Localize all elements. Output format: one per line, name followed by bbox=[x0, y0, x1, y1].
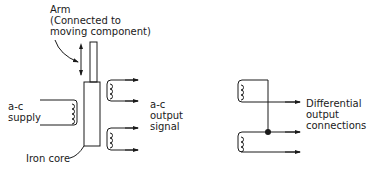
secondary-coil-bottom bbox=[107, 128, 138, 150]
secondary-coil-top bbox=[107, 80, 138, 101]
coil-windings-icon bbox=[110, 133, 113, 148]
primary-coil bbox=[40, 100, 77, 125]
coil-windings-icon bbox=[241, 137, 244, 152]
output-label-line1: a-c bbox=[150, 99, 165, 110]
differential-label-line2: output bbox=[306, 109, 339, 120]
coil-windings-icon bbox=[72, 104, 75, 124]
supply-label-line1: a-c bbox=[8, 101, 23, 112]
differential-coil-top bbox=[238, 80, 300, 102]
lvdt-diagram: Arm (Connected to moving component) a-c … bbox=[0, 0, 369, 171]
coil-windings-icon bbox=[110, 84, 113, 99]
junction-node bbox=[265, 129, 271, 135]
output-label-line2: output bbox=[150, 110, 183, 121]
differential-coil-bottom bbox=[238, 132, 300, 152]
differential-label-line1: Differential bbox=[306, 98, 362, 109]
supply-label-line2: supply bbox=[8, 112, 41, 123]
arm-label: Arm (Connected to moving component) bbox=[50, 4, 151, 37]
arm-label-line2: (Connected to bbox=[50, 15, 121, 26]
coil-windings-icon bbox=[241, 85, 244, 100]
iron-core bbox=[84, 82, 100, 146]
arm-rod bbox=[90, 42, 97, 82]
iron-core-label: Iron core bbox=[26, 153, 70, 164]
iron-core-leader bbox=[70, 146, 84, 158]
output-label-line3: signal bbox=[150, 121, 180, 132]
arm-label-line1: Arm bbox=[50, 4, 71, 15]
arm-leader-arrow bbox=[55, 40, 78, 62]
arm-label-line3: moving component) bbox=[50, 26, 151, 37]
differential-label-line3: connections bbox=[306, 120, 366, 131]
